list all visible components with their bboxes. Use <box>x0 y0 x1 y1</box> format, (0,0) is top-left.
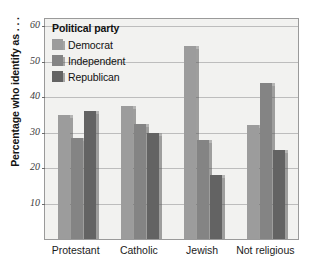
x-tick-label: Jewish <box>171 244 234 256</box>
legend-label: Republican <box>68 71 120 83</box>
bar-group <box>121 19 159 239</box>
bar <box>273 150 285 239</box>
bar <box>71 138 83 239</box>
bar-fill <box>260 83 272 239</box>
bar-fill <box>58 115 70 239</box>
bar-side-shadow <box>159 136 162 239</box>
bar-fill <box>210 175 222 239</box>
bar-fill <box>147 133 159 239</box>
legend-entry: Independent <box>52 53 125 68</box>
legend: Political party DemocratIndependentRepub… <box>52 22 125 85</box>
bar <box>134 124 146 239</box>
y-tick-label-50: 50 <box>20 55 40 66</box>
bar-fill <box>84 111 96 239</box>
legend-entries: DemocratIndependentRepublican <box>52 37 125 84</box>
bar <box>210 175 222 239</box>
y-tick-label-20: 20 <box>20 161 40 172</box>
bar-fill <box>273 150 285 239</box>
y-tick-label-10: 10 <box>20 197 40 208</box>
bar-group <box>247 19 285 239</box>
bar-fill <box>247 125 259 239</box>
legend-entry: Republican <box>52 69 125 84</box>
bar-group <box>184 19 222 239</box>
bar-side-shadow <box>96 114 99 239</box>
bar-fill <box>134 124 146 239</box>
y-tick-label-30: 30 <box>20 126 40 137</box>
bar <box>184 46 196 239</box>
legend-label: Independent <box>68 55 125 67</box>
legend-label: Democrat <box>68 39 113 51</box>
bar-side-shadow <box>222 178 225 239</box>
bar-fill <box>71 138 83 239</box>
legend-title: Political party <box>52 22 125 34</box>
y-axis-tick-labels: 102030405060 <box>18 0 40 272</box>
bar-chart: Percentage who identify as . . . 1020304… <box>0 0 313 272</box>
x-tick-label: Not religious <box>234 244 297 256</box>
bar-fill <box>184 46 196 239</box>
legend-swatch <box>52 55 63 66</box>
legend-swatch <box>52 39 63 50</box>
bar <box>247 125 259 239</box>
bar-side-shadow <box>285 153 288 239</box>
bar-fill <box>121 106 133 239</box>
bar <box>147 133 159 239</box>
bar <box>260 83 272 239</box>
bar <box>197 140 209 239</box>
x-tick-label: Protestant <box>44 244 107 256</box>
x-tick-label: Catholic <box>107 244 170 256</box>
y-tick-label-60: 60 <box>20 19 40 30</box>
bar <box>58 115 70 239</box>
bar <box>121 106 133 239</box>
legend-swatch <box>52 71 63 82</box>
bar-fill <box>197 140 209 239</box>
legend-entry: Democrat <box>52 37 125 52</box>
y-tick-label-40: 40 <box>20 90 40 101</box>
bar <box>84 111 96 239</box>
